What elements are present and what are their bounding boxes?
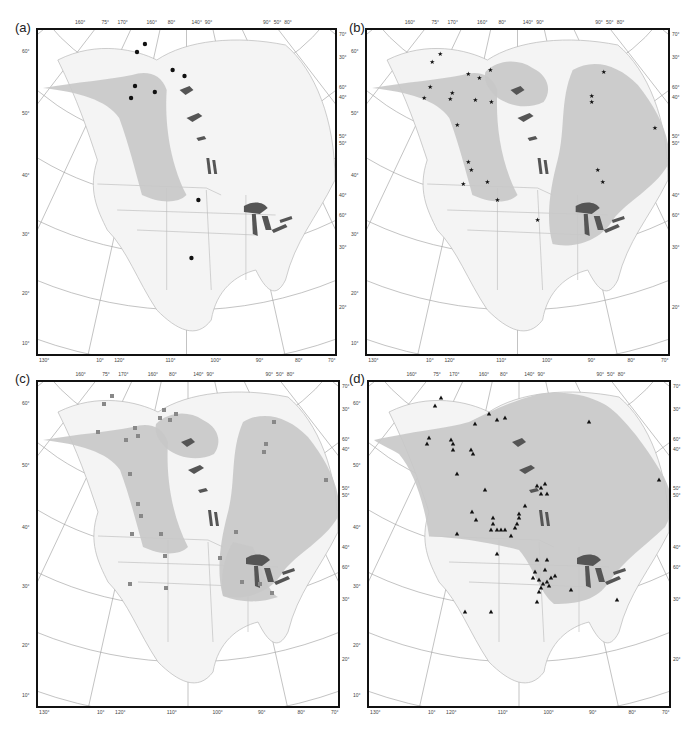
tick-label: 40° <box>351 172 359 178</box>
tick-label: 30° <box>353 583 361 589</box>
tick-label: 10° <box>22 692 30 698</box>
tick-label: 80° <box>295 357 303 363</box>
tick-label: 50° <box>274 19 282 25</box>
occurrence-marker-square-icon <box>124 438 128 442</box>
tick-label: 50° <box>342 485 350 491</box>
tick-label: 140° <box>523 19 533 25</box>
tick-label: 80° <box>618 371 626 377</box>
tick-label: 50° <box>22 462 30 468</box>
tick-label: 80° <box>629 709 637 715</box>
occurrence-marker-circle-icon <box>189 256 193 260</box>
tick-label: 40° <box>342 446 350 452</box>
occurrence-marker-circle-icon <box>182 74 186 78</box>
tick-label: 20° <box>351 290 359 296</box>
tick-label: 40° <box>673 446 681 452</box>
tick-label: 160° <box>477 19 487 25</box>
tick-label: 50° <box>606 19 614 25</box>
tick-label: 90° <box>258 709 266 715</box>
tick-label: 30° <box>339 54 347 60</box>
occurrence-marker-square-icon <box>163 554 167 558</box>
tick-label: 70° <box>328 357 336 363</box>
tick-label: 160° <box>147 19 157 25</box>
tick-label: 70° <box>673 383 681 389</box>
tick-label: 160° <box>479 371 489 377</box>
occurrence-marker-square-icon <box>96 430 100 434</box>
occurrence-marker-square-icon <box>102 402 106 406</box>
tick-label: 50° <box>339 133 347 139</box>
tick-label: 160° <box>75 371 85 377</box>
tick-label: 40° <box>339 192 347 198</box>
occurrence-marker-square-icon <box>136 502 140 506</box>
tick-label: 10° <box>426 357 434 363</box>
occurrence-marker-square-icon <box>130 532 134 536</box>
tick-label: 140° <box>193 371 203 377</box>
tick-label: 40° <box>22 524 30 530</box>
occurrence-marker-square-icon <box>110 394 114 398</box>
tick-label: 120° <box>115 709 125 715</box>
tick-label: 60° <box>673 564 681 570</box>
tick-label: 75° <box>102 19 110 25</box>
map-frame <box>367 380 671 708</box>
tick-label: 10° <box>351 340 359 346</box>
tick-label: 70° <box>331 709 339 715</box>
tick-label: 80° <box>617 19 625 25</box>
tick-label: 120° <box>444 357 454 363</box>
tick-label: 20° <box>22 642 30 648</box>
tick-label: 100° <box>212 709 222 715</box>
tick-label: 50° <box>672 133 680 139</box>
tick-label: 130° <box>39 357 49 363</box>
tick-label: 170° <box>117 19 127 25</box>
occurrence-marker-square-icon <box>128 582 132 586</box>
occurrence-marker-square-icon <box>136 434 140 438</box>
tick-label: 75° <box>102 371 110 377</box>
tick-label: 60° <box>672 212 680 218</box>
tick-label: 10° <box>22 340 30 346</box>
occurrence-marker-square-icon <box>162 408 166 412</box>
tick-label: 110° <box>165 357 175 363</box>
tick-label: 40° <box>353 524 361 530</box>
tick-label: 50° <box>351 110 359 116</box>
tick-label: 40° <box>342 544 350 550</box>
occurrence-marker-circle-icon <box>153 90 157 94</box>
tick-label: 75° <box>433 371 441 377</box>
tick-label: 80° <box>284 19 292 25</box>
occurrence-marker-square-icon <box>218 556 222 560</box>
tick-label: 170° <box>118 371 128 377</box>
tick-label: 90° <box>256 357 264 363</box>
tick-label: 20° <box>342 656 350 662</box>
tick-label: 120° <box>446 709 456 715</box>
tick-label: 140° <box>192 19 202 25</box>
map-frame <box>36 380 340 708</box>
tick-label: 50° <box>22 110 30 116</box>
panel-label: (a) <box>15 20 31 35</box>
map-frame <box>36 28 337 356</box>
tick-label: 90° <box>205 19 213 25</box>
occurrence-marker-square-icon <box>262 450 266 454</box>
tick-label: 50° <box>339 140 347 146</box>
occurrence-marker-square-icon <box>240 580 244 584</box>
tick-label: 30° <box>673 406 681 412</box>
tick-label: 90° <box>589 709 597 715</box>
tick-label: 130° <box>370 709 380 715</box>
tick-label: 70° <box>662 709 670 715</box>
tick-label: 30° <box>339 244 347 250</box>
tick-label: 90° <box>596 371 604 377</box>
occurrence-marker-triangle-icon <box>439 396 443 400</box>
tick-label: 170° <box>448 19 458 25</box>
occurrence-marker-square-icon <box>258 582 262 586</box>
tick-label: 50° <box>276 371 284 377</box>
occurrence-marker-square-icon <box>264 442 268 446</box>
occurrence-marker-square-icon <box>234 530 238 534</box>
tick-label: 40° <box>672 94 680 100</box>
tick-label: 100° <box>211 357 221 363</box>
tick-label: 20° <box>673 656 681 662</box>
tick-label: 90° <box>588 357 596 363</box>
tick-label: 30° <box>672 54 680 60</box>
tick-label: 80° <box>499 19 507 25</box>
tick-label: 90° <box>207 371 215 377</box>
tick-label: 60° <box>342 436 350 442</box>
tick-label: 160° <box>406 371 416 377</box>
tick-label: 10° <box>96 357 104 363</box>
tick-label: 50° <box>673 492 681 498</box>
tick-label: 20° <box>339 304 347 310</box>
